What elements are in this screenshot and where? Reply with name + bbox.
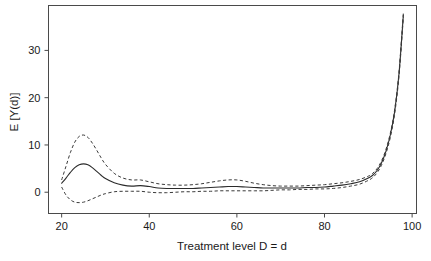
x-tick-label: 20: [56, 220, 68, 232]
y-tick-label: 20: [28, 92, 40, 104]
figure-container: 20406080100 0102030 Treatment level D = …: [0, 0, 431, 261]
y-axis-title: E [Y(d)]: [8, 93, 20, 132]
y-tick-label: 10: [28, 139, 40, 151]
x-tick-label: 80: [318, 220, 330, 232]
x-axis-title: Treatment level D = d: [177, 240, 287, 252]
y-tick-label: 30: [28, 44, 40, 56]
x-tick-label: 100: [403, 220, 421, 232]
x-tick-label: 40: [143, 220, 155, 232]
x-tick-label: 60: [231, 220, 243, 232]
dose-response-chart: 20406080100 0102030 Treatment level D = …: [0, 0, 431, 261]
y-tick-label: 0: [34, 186, 40, 198]
